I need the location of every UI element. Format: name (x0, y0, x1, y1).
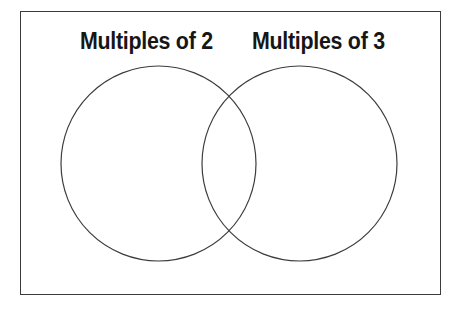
venn-diagram-worksheet: Multiples of 2 Multiples of 3 (0, 0, 461, 309)
venn-label-right: Multiples of 3 (252, 30, 385, 53)
venn-label-left: Multiples of 2 (80, 30, 213, 53)
